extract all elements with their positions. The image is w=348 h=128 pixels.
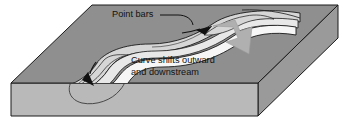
label-point-bars: Point bars xyxy=(112,9,154,19)
block-front-face xyxy=(11,83,258,116)
label-curve-shifts-line1: Curve shifts outward xyxy=(131,55,215,65)
meander-block-diagram: Point bars Curve shifts outward and down… xyxy=(0,0,348,128)
label-curve-shifts-line2: and downstream xyxy=(131,67,199,77)
diagram-canvas: Point bars Curve shifts outward and down… xyxy=(0,0,348,128)
